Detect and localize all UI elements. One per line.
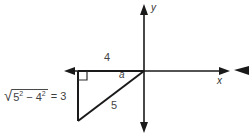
y-axis-top-arrowhead [140,4,148,15]
x-axis-label: x [217,76,222,86]
triangle-hypotenuse [78,71,144,121]
right-angle-mark-icon [78,71,87,80]
y-axis-bottom-arrowhead [140,122,148,133]
triangle-top-side-label: 4 [104,52,110,63]
figure-canvas: y x 4 5 a √ 52−42 = 3 [0,0,249,139]
radicand-second-exponent: 2 [42,90,46,97]
radicand-operator: − [23,91,35,103]
square-root-expression: √ 52−42 = 3 [4,89,66,103]
triangle-angle-label: a [119,70,125,80]
radicand: 52−42 [12,89,48,103]
x-axis-left-arrowhead [64,67,75,75]
x-axis-right-arrowhead [219,67,230,75]
y-axis-label: y [151,3,156,13]
cropped-edge-arrowhead-icon [234,66,249,75]
radical-sign-icon: √ [4,90,12,101]
expression-equals-value: = 3 [48,89,67,102]
triangle-hypotenuse-label: 5 [111,100,117,111]
